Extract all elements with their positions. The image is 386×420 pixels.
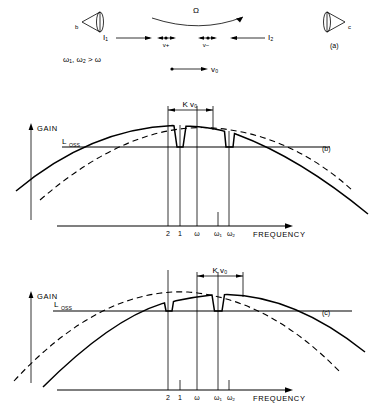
panel-b-tick-label-omega: ω <box>194 230 200 237</box>
panel-b-gain-curve-dashed <box>40 128 352 200</box>
panel-b-frequency-label: FREQUENCY <box>253 230 306 239</box>
panel-b-frequency-axis <box>57 223 293 228</box>
frequency-condition-label: ω₁, ω₂ > ω <box>63 55 101 64</box>
beam-right-arrow-icon <box>230 36 265 40</box>
panel-b-gain-axis <box>29 123 34 220</box>
velocity-plus-marker-icon <box>157 36 176 40</box>
panel-b-gain-curve-solid <box>16 126 368 215</box>
panel-c-id-label: (c) <box>322 309 330 317</box>
detector-cone-left-icon <box>82 12 104 32</box>
panel-b-gain-label: GAIN <box>37 124 58 133</box>
detector-cone-right-icon <box>324 12 346 32</box>
panel-a: b c Ω I₁ v+ <box>63 6 351 74</box>
drift-velocity-arrow-icon <box>170 67 208 71</box>
panel-b-tick-label-2: 2 <box>166 230 170 237</box>
panel-c-tick-label-2: 2 <box>166 394 170 401</box>
detector-left-label: b <box>75 24 79 30</box>
velocity-minus-marker-icon <box>198 36 217 40</box>
panel-b-tick-label-1: 1 <box>178 230 182 237</box>
panel-c-loss-sublabel: OSS <box>61 305 72 311</box>
panel-c-frequency-label: FREQUENCY <box>253 394 306 403</box>
drift-velocity-label: v₀ <box>211 65 218 74</box>
panel-c-gain-curve-solid <box>43 295 365 388</box>
panel-c-tick-label-omega2: ω₂ <box>227 394 235 401</box>
panel-c-tick-label-omega1: ω₁ <box>214 394 222 401</box>
panel-c-frequency-axis <box>57 387 293 392</box>
velocity-plus-label: v+ <box>163 42 170 48</box>
beam-left-label: I₁ <box>103 33 108 42</box>
panel-b-span-label: K v₀ <box>183 100 198 109</box>
panel-c-span-label: K v₀ <box>213 266 228 275</box>
panel-b: GAIN L OSS K v₀ FREQUENCY 2 <box>16 100 368 239</box>
panel-b-tick-label-omega2: ω₂ <box>227 230 235 237</box>
panel-a-id-label: (a) <box>330 42 339 50</box>
figure-container: b c Ω I₁ v+ <box>0 0 386 420</box>
panel-c-loss-label: L <box>54 300 59 309</box>
panel-b-id-label: (b) <box>322 145 331 153</box>
panel-b-loss-sublabel: OSS <box>69 142 80 148</box>
panel-c-tick-label-omega: ω <box>194 394 200 401</box>
panel-c: GAIN L OSS K v₀ FREQUENCY 2 1 <box>14 266 365 403</box>
rotation-arrow-icon <box>152 17 243 26</box>
panel-b-loss-label: L <box>62 137 67 146</box>
panel-c-gain-axis <box>29 291 34 383</box>
rotation-label: Ω <box>193 6 199 15</box>
velocity-minus-label: v− <box>203 42 210 48</box>
panel-b-tick-label-omega1: ω₁ <box>214 230 222 237</box>
beam-right-label: I₂ <box>268 33 273 42</box>
detector-right-label: c <box>348 24 351 30</box>
panel-c-tick-label-1: 1 <box>178 394 182 401</box>
beam-left-arrow-icon <box>116 36 152 40</box>
